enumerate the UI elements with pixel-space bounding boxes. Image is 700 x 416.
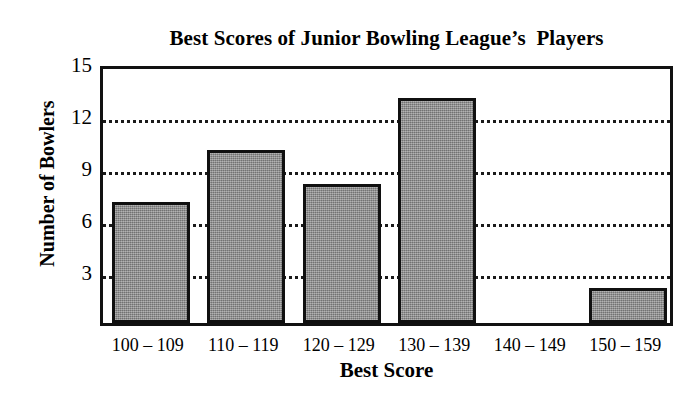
bar[interactable] <box>303 184 381 323</box>
bar[interactable] <box>207 150 285 323</box>
y-tick-label: 15 <box>32 55 92 76</box>
x-tick-label: 150 – 159 <box>578 334 674 356</box>
x-tick-label: 110 – 119 <box>196 334 292 356</box>
bar[interactable] <box>398 98 476 323</box>
bar-slot <box>207 63 285 323</box>
y-tick-label: 9 <box>32 159 92 180</box>
bar-chart-figure: Best Scores of Junior Bowling League’s P… <box>0 0 700 416</box>
plot-inner <box>103 69 670 323</box>
bar-slot <box>112 63 190 323</box>
x-tick-label: 130 – 139 <box>387 334 483 356</box>
bar[interactable] <box>112 202 190 323</box>
x-tick-label: 100 – 109 <box>100 334 196 356</box>
bar-slot <box>303 63 381 323</box>
y-tick-label: 6 <box>32 211 92 232</box>
bar-slot <box>494 63 572 323</box>
plot-area <box>100 66 673 326</box>
x-tick-label: 120 – 129 <box>291 334 387 356</box>
x-tick-label: 140 – 149 <box>482 334 578 356</box>
x-axis-title: Best Score <box>100 358 673 383</box>
y-tick-label: 3 <box>32 263 92 284</box>
bar[interactable] <box>589 288 667 323</box>
y-axis-tick-labels: 3691215 <box>28 66 92 326</box>
y-tick-label: 12 <box>32 107 92 128</box>
chart-title: Best Scores of Junior Bowling League’s P… <box>100 26 673 50</box>
bar-slot <box>589 63 667 323</box>
x-axis-tick-labels: 100 – 109110 – 119120 – 129130 – 139140 … <box>100 334 673 360</box>
bar-slot <box>398 63 476 323</box>
